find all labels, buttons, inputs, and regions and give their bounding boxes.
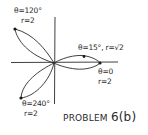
problem-title-text: PROBLEM bbox=[63, 113, 108, 123]
label-theta-240: θ=240° bbox=[22, 100, 50, 108]
label-r-120: r=2 bbox=[21, 17, 35, 25]
label-theta-15: θ=15°, r=√2 bbox=[78, 44, 124, 52]
polar-diagram: θ=120° r=2 θ=15°, r=√2 θ=0 r=2 θ=240° r=… bbox=[0, 0, 148, 135]
x-axis bbox=[11, 62, 118, 63]
petal-240deg bbox=[21, 63, 54, 98]
point-theta-15 bbox=[83, 55, 86, 58]
label-r-0: r=2 bbox=[98, 78, 112, 86]
problem-number: 6(b) bbox=[111, 110, 136, 124]
label-theta-0: θ=0 bbox=[98, 68, 113, 76]
label-theta-120: θ=120° bbox=[14, 7, 42, 15]
point-theta-0 bbox=[98, 61, 101, 64]
point-theta-120 bbox=[13, 27, 16, 30]
problem-title: PROBLEM 6(b) bbox=[63, 110, 136, 124]
petal-120deg bbox=[15, 29, 54, 63]
label-r-240: r=2 bbox=[24, 110, 38, 118]
y-axis bbox=[55, 17, 56, 104]
